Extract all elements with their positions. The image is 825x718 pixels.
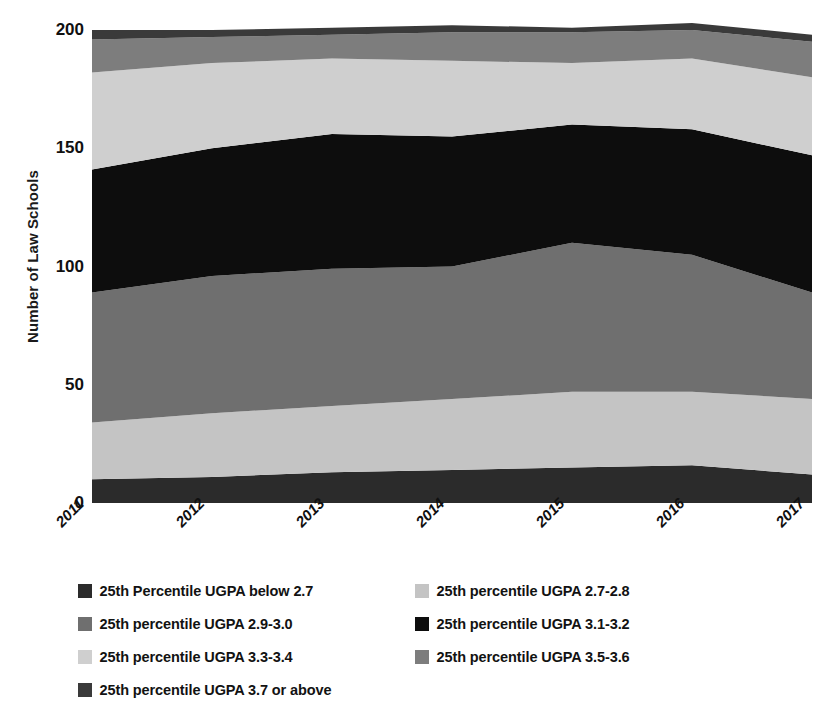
legend-item[interactable]: 25th percentile UGPA 3.7 or above xyxy=(78,682,332,698)
legend-swatch-icon xyxy=(78,617,92,631)
legend-swatch-icon xyxy=(415,650,429,664)
stacked-area-plot xyxy=(0,0,825,575)
legend-item[interactable]: 25th percentile UGPA 3.3-3.4 xyxy=(78,649,293,665)
legend-item-label: 25th percentile UGPA 3.7 or above xyxy=(100,682,332,698)
legend-swatch-icon xyxy=(78,584,92,598)
legend-item-label: 25th percentile UGPA 3.1-3.2 xyxy=(437,616,630,632)
legend-item-label: 25th percentile UGPA 2.9-3.0 xyxy=(100,616,293,632)
legend-item[interactable]: 25th percentile UGPA 2.9-3.0 xyxy=(78,616,293,632)
legend-item-label: 25th percentile UGPA 2.7-2.8 xyxy=(437,583,630,599)
legend-item-label: 25th Percentile UGPA below 2.7 xyxy=(100,583,314,599)
legend-swatch-icon xyxy=(415,584,429,598)
legend-item-label: 25th percentile UGPA 3.3-3.4 xyxy=(100,649,293,665)
legend-item[interactable]: 25th Percentile UGPA below 2.7 xyxy=(78,583,314,599)
chart-legend: 25th Percentile UGPA below 2.725th perce… xyxy=(0,583,825,718)
plot-area: Number of Law Schools 050100150200 20112… xyxy=(0,0,825,575)
legend-item[interactable]: 25th percentile UGPA 3.1-3.2 xyxy=(415,616,630,632)
legend-item[interactable]: 25th percentile UGPA 2.7-2.8 xyxy=(415,583,630,599)
legend-swatch-icon xyxy=(78,683,92,697)
legend-swatch-icon xyxy=(78,650,92,664)
legend-item-label: 25th percentile UGPA 3.5-3.6 xyxy=(437,649,630,665)
legend-item[interactable]: 25th percentile UGPA 3.5-3.6 xyxy=(415,649,630,665)
chart-container: Number of Law Schools 050100150200 20112… xyxy=(0,0,825,718)
legend-swatch-icon xyxy=(415,617,429,631)
